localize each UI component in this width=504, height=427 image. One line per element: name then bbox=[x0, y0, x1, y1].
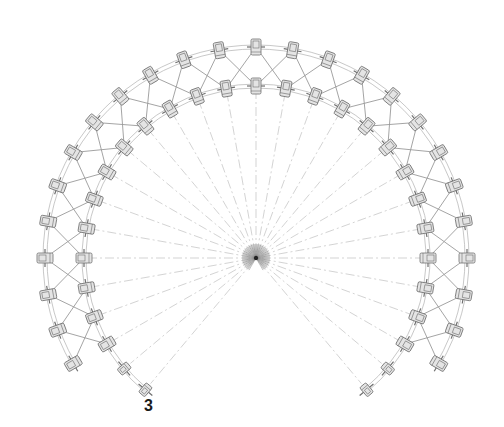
ring-structure-drawing bbox=[0, 0, 504, 427]
hinge-nodes bbox=[37, 39, 475, 400]
center-hub bbox=[254, 256, 258, 260]
radial-lines bbox=[92, 94, 420, 384]
figure-label: 3 bbox=[144, 398, 153, 414]
